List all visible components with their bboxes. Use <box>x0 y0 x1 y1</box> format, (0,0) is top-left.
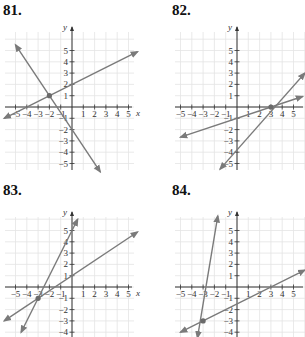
y-axis-label: y <box>62 207 67 217</box>
y-tick-label: 4 <box>229 57 234 67</box>
y-tick-label: 1 <box>64 91 69 101</box>
y-axis-label: y <box>227 207 232 217</box>
plot-area-82 <box>175 32 305 170</box>
plot-area-81 <box>5 32 134 170</box>
tick-labels-84: −5−4−3−2−112345−4−3−2−112345y <box>176 207 297 337</box>
y-tick-label: −3 <box>58 316 68 326</box>
y-tick-label: −3 <box>223 316 233 326</box>
plot-area-84 <box>175 217 305 337</box>
x-tick-label: −4 <box>187 289 197 299</box>
x-tick-label: −4 <box>22 289 32 299</box>
x-tick-label: 4 <box>280 289 285 299</box>
y-tick-label: −2 <box>223 125 233 135</box>
intersection-point <box>47 93 52 98</box>
x-tick-label: 4 <box>280 109 285 119</box>
axes-81 <box>5 27 132 170</box>
y-tick-label: 2 <box>229 259 234 269</box>
y-tick-label: 3 <box>64 248 69 258</box>
y-tick-label: 5 <box>64 226 69 236</box>
y-tick-label: 3 <box>229 248 234 258</box>
y-tick-label: 5 <box>229 46 234 56</box>
grid-82 <box>175 32 305 170</box>
x-tick-label: 4 <box>115 109 120 119</box>
x-tick-label: −4 <box>187 109 197 119</box>
coordinate-plots: −5−4−3−2−112345−5−4−3−2−112345yx−5−4−3−2… <box>0 0 305 337</box>
x-tick-label: 5 <box>126 109 131 119</box>
x-axis-label: x <box>135 288 140 298</box>
x-tick-label: −3 <box>198 109 208 119</box>
x-tick-label: −2 <box>210 289 220 299</box>
y-tick-label: 2 <box>64 259 69 269</box>
y-tick-label: 3 <box>64 68 69 78</box>
x-tick-label: −2 <box>210 109 220 119</box>
x-tick-label: 2 <box>92 289 97 299</box>
y-tick-label: 5 <box>64 46 69 56</box>
x-tick-label: 1 <box>81 109 86 119</box>
tick-labels-81: −5−4−3−2−112345−5−4−3−2−112345yx <box>11 22 140 169</box>
grid-84 <box>175 217 305 337</box>
y-tick-label: −4 <box>223 327 233 337</box>
intersection-point <box>36 296 41 301</box>
plot-83: −5−4−3−2−112345−4−3−2−112345yx <box>4 207 140 337</box>
y-tick-label: 4 <box>64 57 69 67</box>
y-tick-label: −1 <box>58 293 68 303</box>
plot-82: −5−4−3−2−112345−5−4−3−2−112345y <box>175 22 305 170</box>
x-tick-label: 5 <box>291 109 296 119</box>
x-tick-label: 3 <box>104 109 109 119</box>
x-tick-label: −3 <box>198 289 208 299</box>
x-tick-label: −5 <box>11 289 21 299</box>
x-tick-label: −4 <box>22 109 32 119</box>
intersection-point <box>201 318 206 323</box>
y-tick-label: 4 <box>229 237 234 247</box>
y-axis-label: y <box>62 22 67 32</box>
y-tick-label: 1 <box>229 271 234 281</box>
plot-84: −5−4−3−2−112345−4−3−2−112345y <box>175 207 305 337</box>
x-tick-label: 5 <box>126 289 131 299</box>
x-tick-label: 5 <box>291 289 296 299</box>
y-axis-label: y <box>227 22 232 32</box>
tick-labels-83: −5−4−3−2−112345−4−3−2−112345yx <box>11 207 140 337</box>
x-tick-label: 3 <box>269 289 274 299</box>
y-tick-label: 2 <box>229 79 234 89</box>
x-tick-label: −5 <box>176 109 186 119</box>
y-tick-label: −3 <box>58 136 68 146</box>
y-tick-label: −4 <box>58 147 68 157</box>
plot-81: −5−4−3−2−112345−5−4−3−2−112345yx <box>4 22 140 172</box>
x-tick-label: −3 <box>33 109 43 119</box>
y-tick-label: −4 <box>58 327 68 337</box>
y-tick-label: −5 <box>58 159 68 169</box>
x-axis-label: x <box>135 108 140 118</box>
y-tick-label: −1 <box>223 293 233 303</box>
y-tick-label: 3 <box>229 68 234 78</box>
x-tick-label: 1 <box>81 289 86 299</box>
x-tick-label: −5 <box>176 289 186 299</box>
x-tick-label: 4 <box>115 289 120 299</box>
y-tick-label: 1 <box>229 91 234 101</box>
y-tick-label: −2 <box>58 125 68 135</box>
y-tick-label: −2 <box>58 305 68 315</box>
x-tick-label: 3 <box>104 289 109 299</box>
series-line-a <box>181 270 305 332</box>
x-tick-label: −2 <box>45 109 55 119</box>
x-tick-label: 2 <box>92 109 97 119</box>
tick-labels-82: −5−4−3−2−112345−5−4−3−2−112345y <box>176 22 297 169</box>
grid-81 <box>5 32 134 170</box>
y-tick-label: 5 <box>229 226 234 236</box>
y-tick-label: −3 <box>223 136 233 146</box>
intersection-point <box>268 104 273 109</box>
